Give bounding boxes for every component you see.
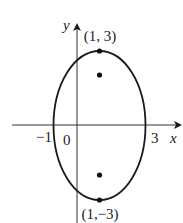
right-intercept-label: 3 <box>151 130 159 146</box>
lower-focus-point <box>97 172 102 177</box>
y-axis-label: y <box>61 17 70 33</box>
upper-focus-point <box>97 72 102 77</box>
bottom-vertex-label: (1,−3) <box>81 206 118 223</box>
left-intercept-label: −1 <box>36 129 52 145</box>
ellipse-diagram: y x (1, 3) (1,−3) −1 0 3 <box>0 0 183 223</box>
top-vertex-label: (1, 3) <box>84 28 117 45</box>
top-vertex-point <box>97 48 102 53</box>
bottom-vertex-point <box>97 197 102 202</box>
origin-label: 0 <box>63 132 71 148</box>
x-axis-label: x <box>169 130 177 146</box>
